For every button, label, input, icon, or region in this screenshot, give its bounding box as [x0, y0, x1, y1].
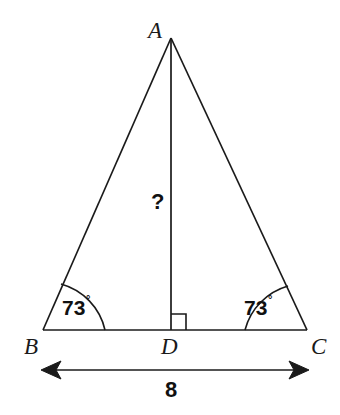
- vertex-label-b: B: [24, 334, 38, 359]
- angle-label-right-value: 73: [244, 296, 267, 319]
- vertex-label-a: A: [146, 18, 163, 43]
- right-angle-marker-icon: [171, 314, 186, 330]
- vertex-label-c: C: [311, 334, 327, 359]
- vertex-label-d: D: [160, 334, 178, 359]
- geometry-diagram: A B D C 73 ° 73 ° ? 8: [0, 0, 340, 415]
- angle-label-left-value: 73: [62, 296, 85, 319]
- triangle-side-ab: [43, 38, 171, 330]
- angle-label-right-degree: °: [268, 293, 272, 305]
- angle-label-left-degree: °: [86, 293, 90, 305]
- altitude-unknown-label: ?: [151, 189, 164, 214]
- geometry-canvas: A B D C 73 ° 73 ° ? 8: [0, 0, 340, 415]
- dimension-label-value: 8: [165, 377, 177, 402]
